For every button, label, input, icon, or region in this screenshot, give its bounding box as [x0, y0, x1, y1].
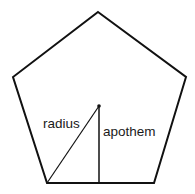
radius-label: radius	[43, 116, 80, 131]
apothem-label: apothem	[103, 124, 156, 139]
center-point	[97, 104, 101, 108]
pentagon-diagram: radius apothem	[0, 0, 195, 194]
